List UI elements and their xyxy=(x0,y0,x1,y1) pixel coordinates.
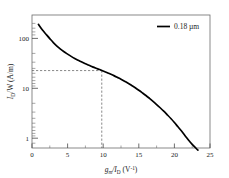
svg-text:ID/W (A/m): ID/W (A/m) xyxy=(6,63,16,100)
x-tick-label-10: 10 xyxy=(100,151,108,159)
x-axis-title-units-close: ) xyxy=(135,165,138,174)
x-tick-label-20: 20 xyxy=(171,151,179,159)
legend-label-0: 0.18 µm xyxy=(174,22,199,31)
y-axis-title-w: /W (A/m) xyxy=(6,63,15,93)
x-tick-label-5: 5 xyxy=(66,151,70,159)
x-tick-label-25: 25 xyxy=(207,151,215,159)
x-axis-title: gm/ID (V-1) xyxy=(105,165,138,175)
y-tick-label-10: 10 xyxy=(22,85,30,93)
y-tick-label-100: 100 xyxy=(19,35,30,43)
svg-text:gm/ID (V-1): gm/ID (V-1) xyxy=(105,165,138,175)
figure-container: 100 10 1 0 5 10 15 20 25 gm/ID (V-1) ID/… xyxy=(0,0,229,178)
y-axis-title: ID/W (A/m) xyxy=(6,63,16,100)
x-tick-label-15: 15 xyxy=(135,151,143,159)
plot-frame xyxy=(32,15,210,148)
x-tick-label-0: 0 xyxy=(30,151,34,159)
chart-canvas: 100 10 1 0 5 10 15 20 25 gm/ID (V-1) ID/… xyxy=(0,0,229,178)
y-tick-label-1: 1 xyxy=(26,135,30,143)
